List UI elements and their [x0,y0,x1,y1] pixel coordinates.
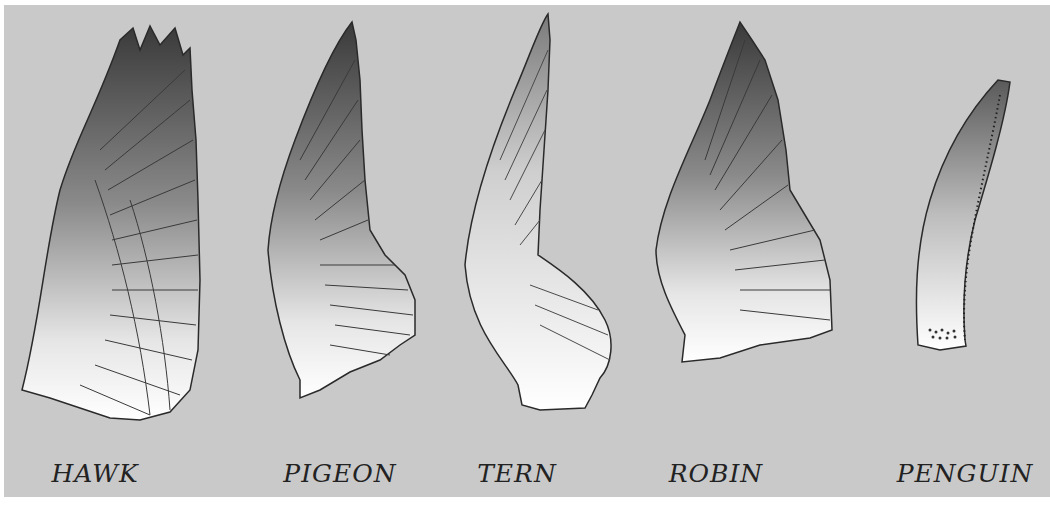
tern-wing [465,14,611,410]
penguin-wing [916,80,1010,350]
hawk-wing [22,26,200,420]
figure-plate: HAWK PIGEON TERN ROBIN PENGUIN [4,5,1050,497]
label-pigeon: PIGEON [283,457,396,491]
label-tern: TERN [477,457,557,491]
label-hawk: HAWK [51,457,138,491]
label-penguin: PENGUIN [897,457,1034,491]
pigeon-wing [268,22,415,398]
robin-wing [656,22,832,362]
wings-illustration [0,0,1050,505]
label-robin: ROBIN [669,457,763,491]
